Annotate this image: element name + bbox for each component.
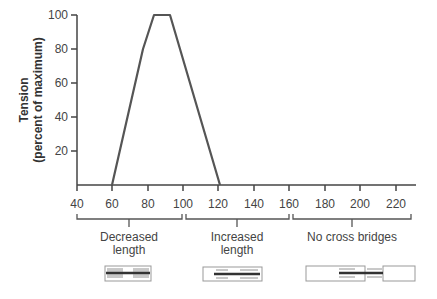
y-tick-label: 40 bbox=[55, 110, 69, 124]
region-label-decreased-2: length bbox=[113, 243, 146, 257]
y-tick-label: 100 bbox=[48, 8, 68, 22]
sarcomere-increased-icon bbox=[203, 267, 262, 281]
x-tick-label: 180 bbox=[315, 197, 335, 211]
y-tick-label: 20 bbox=[55, 144, 69, 158]
x-tick-label: 200 bbox=[350, 197, 370, 211]
svg-text:(percent of maximum): (percent of maximum) bbox=[31, 37, 45, 162]
x-tick-label: 100 bbox=[173, 197, 193, 211]
x-tick-label: 140 bbox=[244, 197, 264, 211]
x-tick-label: 160 bbox=[279, 197, 299, 211]
x-tick-label: 120 bbox=[208, 197, 228, 211]
y-tick-label: 80 bbox=[55, 42, 69, 56]
x-tick-label: 220 bbox=[386, 197, 406, 211]
chart: 100 80 60 40 20 Tension (percent of maxi… bbox=[0, 0, 437, 299]
region-label-increased: Increased bbox=[211, 230, 264, 244]
tension-curve bbox=[112, 15, 220, 185]
sarcomere-no-bridges-icon bbox=[306, 266, 415, 281]
region-brackets bbox=[77, 214, 411, 227]
x-tick-label: 60 bbox=[105, 197, 119, 211]
y-axis-label: Tension (percent of maximum) bbox=[17, 37, 45, 162]
svg-text:Tension: Tension bbox=[17, 77, 31, 122]
x-ticks: 40 60 80 100 120 140 160 180 200 220 bbox=[70, 185, 406, 211]
x-tick-label: 40 bbox=[70, 197, 84, 211]
region-label-decreased: Decreased bbox=[100, 230, 158, 244]
sarcomere-decreased-icon bbox=[105, 266, 151, 281]
y-tick-label: 60 bbox=[55, 76, 69, 90]
x-tick-label: 80 bbox=[141, 197, 155, 211]
y-ticks: 100 80 60 40 20 bbox=[48, 8, 77, 158]
region-label-no-cross-bridges: No cross bridges bbox=[307, 230, 397, 244]
region-label-increased-2: length bbox=[221, 243, 254, 257]
